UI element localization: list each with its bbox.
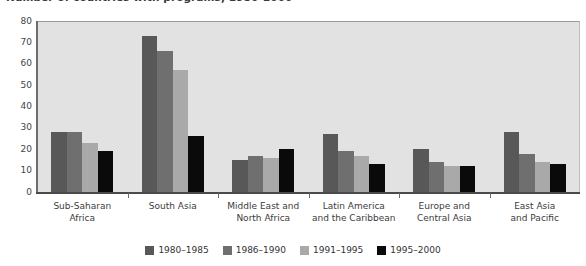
y-axis-line — [36, 21, 38, 193]
x-category-label: Middle East andNorth Africa — [218, 201, 309, 224]
x-category-label-line: Middle East and — [218, 201, 309, 213]
legend-label: 1986–1990 — [236, 245, 286, 255]
bar — [157, 51, 173, 192]
legend-entry[interactable]: 1986–1990 — [223, 245, 286, 255]
x-category-label-line: Africa — [37, 213, 128, 225]
y-tick-label: 0 — [6, 188, 32, 197]
y-tick-label: 40 — [6, 102, 32, 111]
plot-inner — [37, 22, 579, 192]
bar-group — [399, 22, 490, 192]
plot-area — [37, 21, 580, 192]
legend-label: 1980–1985 — [158, 245, 208, 255]
legend-entry[interactable]: 1980–1985 — [145, 245, 208, 255]
x-category-label-line: North Africa — [218, 213, 309, 225]
bar-group — [490, 22, 581, 192]
bar — [519, 154, 535, 192]
bar-chart: Number of countries with programs, 1980-… — [0, 0, 586, 266]
x-category-label-line: and the Caribbean — [309, 213, 400, 225]
x-category-label-line: South Asia — [128, 201, 219, 213]
x-tick-mark — [309, 193, 310, 198]
x-category-label: East Asiaand Pacific — [490, 201, 581, 224]
bar — [338, 151, 354, 192]
bar — [279, 149, 295, 192]
bar — [429, 162, 445, 192]
y-tick-label: 50 — [6, 81, 32, 90]
x-tick-mark — [490, 193, 491, 198]
y-tick-label: 20 — [6, 145, 32, 154]
y-axis: 01020304050607080 — [2, 0, 32, 266]
bar — [369, 164, 385, 192]
bar — [232, 160, 248, 192]
bar — [460, 166, 476, 192]
y-tick-label: 10 — [6, 166, 32, 175]
y-tick-label: 70 — [6, 38, 32, 47]
x-category-label-line: Europe and — [399, 201, 490, 213]
x-tick-mark — [218, 193, 219, 198]
x-category-label-line: Central Asia — [399, 213, 490, 225]
x-category-label-line: and Pacific — [490, 213, 581, 225]
legend-entry[interactable]: 1991–1995 — [300, 245, 363, 255]
legend-label: 1995–2000 — [390, 245, 440, 255]
bar — [535, 162, 551, 192]
bar — [354, 156, 370, 192]
bar — [248, 156, 264, 192]
y-tick-label: 30 — [6, 123, 32, 132]
bar — [444, 166, 460, 192]
bar — [188, 136, 204, 192]
x-category-label-line: Sub-Saharan — [37, 201, 128, 213]
bar-group — [128, 22, 219, 192]
legend-swatch-icon — [300, 246, 309, 255]
legend-swatch-icon — [377, 246, 386, 255]
x-tick-mark — [399, 193, 400, 198]
x-category-label-line: East Asia — [490, 201, 581, 213]
legend-entry[interactable]: 1995–2000 — [377, 245, 440, 255]
bar-group — [37, 22, 128, 192]
bar — [51, 132, 67, 192]
bar — [550, 164, 566, 192]
x-category-label-line: Latin America — [309, 201, 400, 213]
bar — [263, 158, 279, 192]
bar — [413, 149, 429, 192]
bar — [173, 70, 189, 192]
bar — [504, 132, 520, 192]
legend-swatch-icon — [223, 246, 232, 255]
bar — [82, 143, 98, 192]
x-category-label: Sub-SaharanAfrica — [37, 201, 128, 224]
bar — [67, 132, 83, 192]
legend: 1980–19851986–19901991–19951995–2000 — [0, 245, 586, 255]
x-tick-mark — [128, 193, 129, 198]
x-category-label: Latin Americaand the Caribbean — [309, 201, 400, 224]
bar-group — [309, 22, 400, 192]
bar — [323, 134, 339, 192]
legend-swatch-icon — [145, 246, 154, 255]
bar — [142, 36, 158, 192]
chart-title: Number of countries with programs, 1980-… — [6, 0, 293, 3]
bar-group — [218, 22, 309, 192]
y-tick-label: 80 — [6, 17, 32, 26]
legend-label: 1991–1995 — [313, 245, 363, 255]
y-tick-label: 60 — [6, 59, 32, 68]
x-category-label: Europe andCentral Asia — [399, 201, 490, 224]
bar — [98, 151, 114, 192]
x-category-label: South Asia — [128, 201, 219, 213]
